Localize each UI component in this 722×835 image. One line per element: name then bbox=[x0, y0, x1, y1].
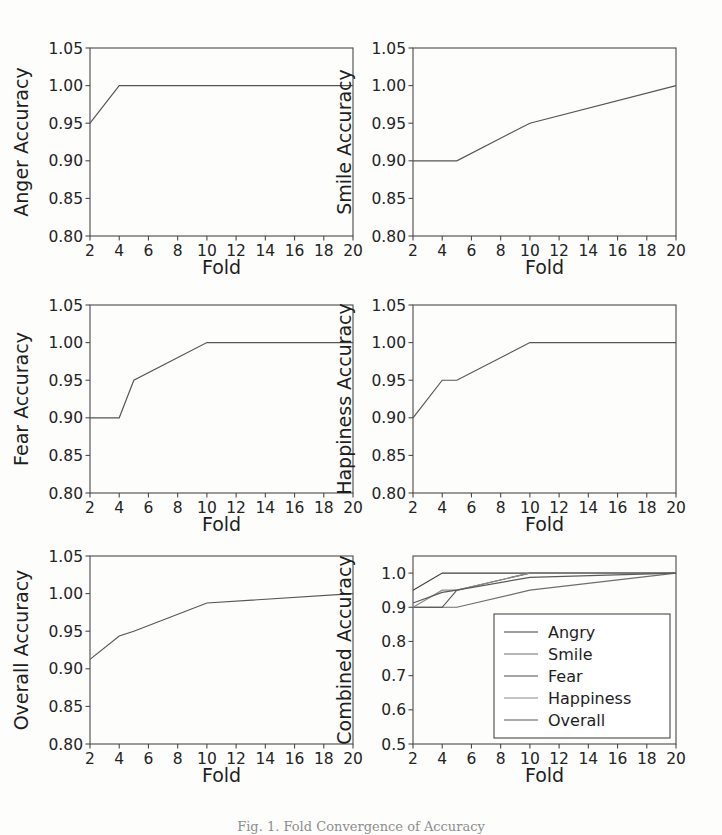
chart-combined: 0.50.60.70.80.91.02468101214161820FoldCo… bbox=[323, 516, 684, 801]
y-axis-title: Smile Accuracy bbox=[333, 69, 355, 215]
chart-smile: 0.800.850.900.951.001.052468101214161820… bbox=[323, 8, 684, 293]
x-tick-label: 8 bbox=[173, 750, 183, 768]
y-tick-label: 1.05 bbox=[48, 548, 83, 566]
data-line-angry bbox=[90, 86, 353, 124]
legend-label-angry: Angry bbox=[548, 623, 595, 642]
x-tick-label: 2 bbox=[408, 499, 418, 517]
y-tick-label: 1.00 bbox=[48, 334, 83, 352]
y-tick-label: 1.00 bbox=[371, 334, 406, 352]
y-axis-title: Fear Accuracy bbox=[10, 332, 32, 466]
x-tick-label: 8 bbox=[173, 499, 183, 517]
x-tick-label: 20 bbox=[666, 242, 686, 260]
x-tick-label: 2 bbox=[85, 499, 95, 517]
y-tick-label: 0.85 bbox=[371, 190, 406, 208]
y-tick-label: 0.85 bbox=[371, 447, 406, 465]
x-tick-label: 16 bbox=[285, 750, 305, 768]
y-tick-label: 0.9 bbox=[381, 599, 406, 617]
x-tick-label: 2 bbox=[408, 750, 418, 768]
y-tick-label: 1.00 bbox=[371, 77, 406, 95]
y-tick-label: 0.5 bbox=[381, 736, 406, 754]
y-tick-label: 0.90 bbox=[371, 409, 406, 427]
plot-frame bbox=[90, 48, 353, 236]
x-tick-label: 6 bbox=[144, 750, 154, 768]
chart-happiness: 0.800.850.900.951.001.052468101214161820… bbox=[323, 265, 684, 550]
y-tick-label: 0.80 bbox=[48, 228, 83, 246]
x-tick-label: 2 bbox=[85, 750, 95, 768]
x-tick-label: 14 bbox=[255, 242, 275, 260]
y-tick-label: 0.85 bbox=[48, 447, 83, 465]
chart-anger: 0.800.850.900.951.001.052468101214161820… bbox=[0, 8, 361, 293]
data-line-smile bbox=[413, 86, 676, 161]
x-tick-label: 4 bbox=[114, 242, 124, 260]
y-tick-label: 1.00 bbox=[48, 77, 83, 95]
x-tick-label: 8 bbox=[173, 242, 183, 260]
y-axis-title: Combined Accuracy bbox=[333, 555, 355, 744]
data-line-happiness bbox=[413, 343, 676, 418]
y-tick-label: 0.80 bbox=[48, 485, 83, 503]
x-tick-label: 18 bbox=[637, 750, 657, 768]
y-tick-label: 0.95 bbox=[48, 115, 83, 133]
x-tick-label: 14 bbox=[578, 499, 598, 517]
y-tick-label: 0.85 bbox=[48, 698, 83, 716]
x-tick-label: 16 bbox=[285, 242, 305, 260]
figure-caption: Fig. 1. Fold Convergence of Accuracy bbox=[0, 812, 722, 835]
y-tick-label: 0.95 bbox=[371, 372, 406, 390]
y-tick-label: 0.80 bbox=[48, 736, 83, 754]
panel-overall: 0.800.850.900.951.001.052468101214161820… bbox=[0, 516, 361, 801]
legend-label-fear: Fear bbox=[548, 667, 583, 686]
x-tick-label: 2 bbox=[408, 242, 418, 260]
plot-frame bbox=[90, 305, 353, 493]
x-tick-label: 16 bbox=[608, 750, 628, 768]
data-line-overall bbox=[90, 594, 353, 660]
subplot-grid: 0.800.850.900.951.001.052468101214161820… bbox=[0, 0, 722, 800]
y-tick-label: 0.90 bbox=[48, 152, 83, 170]
y-tick-label: 0.90 bbox=[48, 409, 83, 427]
x-tick-label: 6 bbox=[467, 499, 477, 517]
x-axis-title: Fold bbox=[525, 764, 564, 786]
y-tick-label: 1.05 bbox=[371, 40, 406, 58]
y-tick-label: 0.95 bbox=[371, 115, 406, 133]
x-tick-label: 2 bbox=[85, 242, 95, 260]
y-tick-label: 0.90 bbox=[48, 660, 83, 678]
y-tick-label: 0.85 bbox=[48, 190, 83, 208]
x-tick-label: 18 bbox=[637, 242, 657, 260]
x-tick-label: 20 bbox=[666, 750, 686, 768]
x-tick-label: 14 bbox=[255, 499, 275, 517]
x-tick-label: 8 bbox=[496, 750, 506, 768]
y-axis-title: Anger Accuracy bbox=[10, 67, 32, 216]
panel-happiness: 0.800.850.900.951.001.052468101214161820… bbox=[323, 265, 684, 550]
figure-page: 0.800.850.900.951.001.052468101214161820… bbox=[0, 0, 722, 835]
y-tick-label: 0.6 bbox=[381, 701, 406, 719]
plot-frame bbox=[413, 305, 676, 493]
y-axis-title: Happiness Accuracy bbox=[333, 303, 355, 495]
plot-frame bbox=[413, 48, 676, 236]
panel-smile: 0.800.850.900.951.001.052468101214161820… bbox=[323, 8, 684, 293]
x-tick-label: 16 bbox=[285, 499, 305, 517]
panel-combined: 0.50.60.70.80.91.02468101214161820FoldCo… bbox=[323, 516, 684, 801]
y-tick-label: 1.00 bbox=[48, 585, 83, 603]
plot-frame bbox=[90, 556, 353, 744]
y-tick-label: 1.0 bbox=[381, 565, 406, 583]
x-tick-label: 16 bbox=[608, 499, 628, 517]
x-tick-label: 8 bbox=[496, 499, 506, 517]
panel-fear: 0.800.850.900.951.001.052468101214161820… bbox=[0, 265, 361, 550]
y-tick-label: 0.95 bbox=[48, 623, 83, 641]
y-tick-label: 1.05 bbox=[371, 297, 406, 315]
x-tick-label: 20 bbox=[666, 499, 686, 517]
x-tick-label: 14 bbox=[255, 750, 275, 768]
x-tick-label: 4 bbox=[437, 499, 447, 517]
x-tick-label: 6 bbox=[144, 499, 154, 517]
legend-label-smile: Smile bbox=[548, 645, 592, 664]
x-tick-label: 4 bbox=[437, 750, 447, 768]
y-tick-label: 0.7 bbox=[381, 667, 406, 685]
chart-overall: 0.800.850.900.951.001.052468101214161820… bbox=[0, 516, 361, 801]
y-tick-label: 0.95 bbox=[48, 372, 83, 390]
x-tick-label: 16 bbox=[608, 242, 628, 260]
x-tick-label: 8 bbox=[496, 242, 506, 260]
x-tick-label: 4 bbox=[437, 242, 447, 260]
x-tick-label: 14 bbox=[578, 242, 598, 260]
x-tick-label: 14 bbox=[578, 750, 598, 768]
data-line-fear bbox=[90, 343, 353, 418]
x-tick-label: 4 bbox=[114, 750, 124, 768]
x-tick-label: 6 bbox=[467, 242, 477, 260]
